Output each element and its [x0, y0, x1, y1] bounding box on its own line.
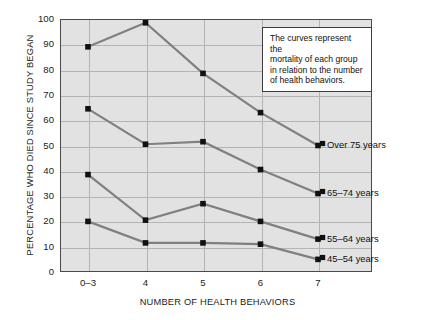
legend-marker [320, 141, 325, 146]
data-point-marker [143, 20, 149, 26]
data-point-marker [85, 106, 91, 112]
series-label-45-54: 45–54 years [327, 253, 379, 264]
series-label-over-75: Over 75 years [327, 139, 386, 150]
data-point-marker [200, 240, 206, 246]
annotation-line-4: of health behaviors. [270, 75, 365, 86]
data-point-marker [315, 236, 321, 242]
data-point-marker [85, 219, 91, 225]
data-point-marker [200, 201, 206, 207]
annotation-box: The curves represent the mortality of ea… [262, 27, 372, 92]
annotation-line-2: mortality of each group [270, 54, 365, 65]
data-point-marker [315, 143, 321, 149]
data-point-marker [258, 167, 264, 173]
data-point-marker [258, 241, 264, 247]
x-axis-title: NUMBER OF HEALTH BEHAVIORS [60, 297, 375, 307]
legend-marker [320, 235, 325, 240]
data-point-marker [85, 172, 91, 178]
legend-marker [320, 255, 325, 260]
data-point-marker [200, 71, 206, 77]
series-line [88, 175, 318, 240]
data-point-marker [143, 240, 149, 246]
data-point-marker [143, 141, 149, 147]
series-label-55-64: 55–64 years [327, 233, 379, 244]
data-point-marker [258, 219, 264, 225]
data-point-marker [258, 110, 264, 116]
data-point-marker [85, 44, 91, 50]
annotation-line-3: in relation to the number [270, 65, 365, 76]
legend-marker [320, 189, 325, 194]
data-point-marker [200, 139, 206, 145]
data-point-marker [315, 191, 321, 197]
data-point-marker [315, 257, 321, 263]
series-label-65-74: 65–74 years [327, 187, 379, 198]
series-line [88, 109, 318, 194]
mortality-health-behaviors-chart: PERCENTAGE WHO DIED SINCE STUDY BEGAN 10… [0, 0, 435, 320]
annotation-line-1: The curves represent the [270, 33, 365, 54]
data-point-marker [143, 217, 149, 223]
